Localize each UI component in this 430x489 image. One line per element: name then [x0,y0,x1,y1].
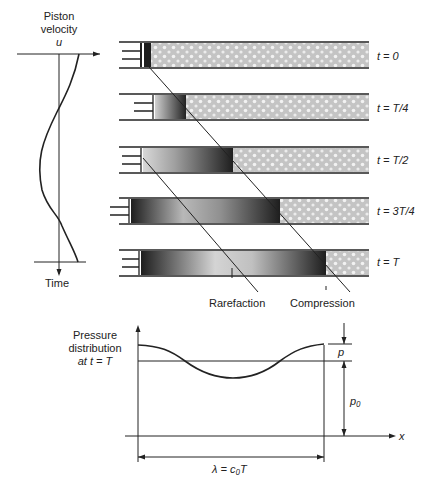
x-axis-symbol: x [399,430,405,443]
tube-t-quarter [119,94,369,120]
tube-label-t-quarter: t = T/4 [377,102,409,115]
pressure-plot [125,323,396,462]
velocity-plot [17,52,100,277]
diagram-canvas [0,0,430,489]
tube-label-t-half: t = T/2 [377,154,409,167]
time-label: Time [45,277,69,290]
tube-t-three-quarter [110,198,369,224]
tube-label-t0: t = 0 [377,50,399,63]
rarefaction-label: Rarefaction [209,297,265,310]
tube-t0 [119,42,369,68]
wavelength-label: λ = c₀T [212,463,247,476]
pressure-title: Pressure distribution at t = T [60,329,130,368]
velocity-title: Piston velocity u [34,10,84,49]
amplitude-symbol: p [338,346,344,359]
tube-label-t-full: t = T [377,256,399,269]
compression-label: Compression [290,297,355,310]
tube-label-t-three-quarter: t = 3T/4 [377,205,415,218]
ambient-pressure-symbol: p₀ [350,395,361,408]
tube-t-half [119,147,369,173]
tube-t-full [119,250,369,276]
